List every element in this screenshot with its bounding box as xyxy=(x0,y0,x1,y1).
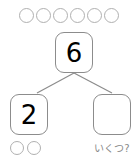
circle-counter-icon xyxy=(27,141,41,155)
prompt-label: いくつ? xyxy=(89,140,135,155)
circle-counter-icon xyxy=(10,141,24,155)
total-number-value: 6 xyxy=(66,40,83,66)
part-number-box-right[interactable] xyxy=(93,94,131,135)
part-number-box-left[interactable]: 2 xyxy=(10,94,48,135)
connector-lines xyxy=(0,0,140,163)
left-part-counter-row xyxy=(10,141,41,155)
connector-line-left xyxy=(37,73,74,93)
total-number-box[interactable]: 6 xyxy=(55,32,93,73)
part-left-number-value: 2 xyxy=(21,102,38,128)
connector-line-right xyxy=(74,73,112,93)
number-bond-worksheet: 6 2 いくつ? xyxy=(0,0,140,163)
